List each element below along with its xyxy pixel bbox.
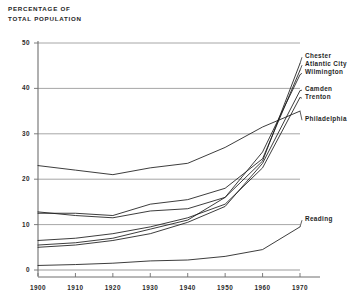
chart-plot-area	[0, 0, 349, 306]
x-tick-label-1950: 1950	[207, 284, 243, 291]
axes-group	[38, 41, 320, 277]
series-label-reading: Reading	[305, 215, 333, 222]
label-leader-lines-group	[300, 57, 302, 227]
x-tick-label-1960: 1960	[245, 284, 281, 291]
series-lines-group	[38, 63, 300, 265]
x-tick-label-1930: 1930	[132, 284, 168, 291]
leader-line-wilmington	[300, 73, 302, 75]
series-label-chester: Chester	[305, 52, 331, 59]
chart-container: PERCENTAGE OF TOTAL POPULATION 010203040…	[0, 0, 349, 306]
leader-line-reading	[300, 220, 302, 227]
series-label-camden: Camden	[305, 85, 332, 92]
y-tick-label-40: 40	[8, 84, 30, 91]
series-line-wilmington	[38, 75, 300, 218]
x-tick-label-1940: 1940	[170, 284, 206, 291]
x-tick-marks-group	[38, 273, 300, 277]
y-tick-label-20: 20	[8, 175, 30, 182]
x-tick-label-1920: 1920	[95, 284, 131, 291]
x-tick-label-1910: 1910	[57, 284, 93, 291]
leader-line-philadelphia	[300, 111, 302, 120]
series-line-trenton	[38, 97, 300, 240]
series-line-camden	[38, 91, 300, 248]
series-line-atlantic-city	[38, 70, 300, 215]
y-tick-marks-group	[34, 43, 38, 270]
x-tick-label-1900: 1900	[20, 284, 56, 291]
leader-line-trenton	[300, 97, 302, 98]
y-tick-label-30: 30	[8, 130, 30, 137]
series-label-atlantic-city: Atlantic City	[305, 60, 347, 67]
series-label-wilmington: Wilmington	[305, 68, 343, 75]
y-tick-label-50: 50	[8, 39, 30, 46]
x-tick-label-1970: 1970	[282, 284, 318, 291]
leader-line-chester	[300, 57, 302, 63]
gridlines-group	[38, 43, 300, 270]
y-tick-label-0: 0	[8, 266, 30, 273]
y-tick-label-10: 10	[8, 221, 30, 228]
series-label-trenton: Trenton	[305, 93, 331, 100]
series-line-reading	[38, 227, 300, 266]
leader-line-atlantic-city	[300, 65, 302, 70]
series-label-philadelphia: Philadelphia	[305, 115, 347, 122]
